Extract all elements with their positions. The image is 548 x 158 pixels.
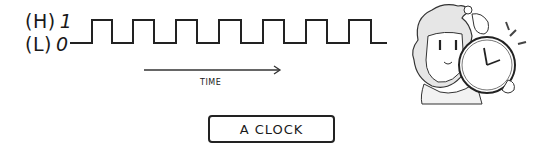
- caption-box: A CLOCK: [208, 115, 335, 143]
- caption-text: A CLOCK: [240, 122, 304, 137]
- girl-with-clock-icon: [400, 0, 548, 105]
- time-axis-label: TIME: [200, 78, 221, 87]
- time-arrow-icon: [144, 66, 280, 74]
